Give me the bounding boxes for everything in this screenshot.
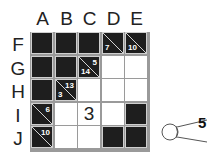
cell-bi[interactable] — [55, 103, 77, 125]
column-label-b: B — [55, 9, 78, 29]
cell-value — [125, 79, 147, 101]
row-label-i: I — [8, 106, 28, 126]
cell-eh[interactable] — [125, 79, 147, 101]
cell-value — [125, 56, 147, 78]
blocked-cell-dj — [102, 126, 124, 148]
down-clue: 10 — [128, 44, 137, 52]
column-label-e: E — [125, 9, 148, 29]
clue-cell-bh: 133 — [55, 79, 77, 101]
cell-dh[interactable] — [102, 79, 124, 101]
blocked-cell-ah — [31, 79, 53, 101]
clue-cell-df: 7 — [102, 32, 124, 54]
blocked-cell-bg — [55, 56, 77, 78]
cell-dg[interactable] — [102, 56, 124, 78]
column-label-a: A — [31, 9, 54, 29]
cell-value — [78, 79, 100, 101]
across-clue: 10 — [41, 129, 50, 137]
cell-value — [102, 56, 124, 78]
clue-cell-cg: 514 — [78, 56, 100, 78]
row-label-g: G — [8, 59, 28, 79]
cell-value — [102, 103, 124, 125]
kakuro-grid: 7105141336310 — [30, 32, 150, 152]
row-label-f: F — [8, 35, 28, 55]
hint-callout-value: 5 — [198, 114, 206, 131]
down-clue: 3 — [58, 91, 62, 99]
cell-eg[interactable] — [125, 56, 147, 78]
clue-cell-ef: 10 — [125, 32, 147, 54]
down-clue: 7 — [105, 44, 109, 52]
across-clue: 6 — [46, 106, 50, 114]
cell-value — [55, 103, 77, 125]
row-label-j: J — [8, 129, 28, 149]
clue-cell-aj: 10 — [31, 126, 53, 148]
down-clue: 14 — [81, 68, 90, 76]
blocked-cell-ag — [31, 56, 53, 78]
column-label-c: C — [78, 9, 101, 29]
blocked-cell-ej — [125, 126, 147, 148]
blocked-cell-bf — [55, 32, 77, 54]
across-clue: 5 — [93, 59, 97, 67]
clue-cell-ai: 6 — [31, 103, 53, 125]
cell-value — [78, 126, 100, 148]
row-label-h: H — [8, 82, 28, 102]
blocked-cell-ei — [125, 103, 147, 125]
cell-bj[interactable] — [55, 126, 77, 148]
cell-ch[interactable] — [78, 79, 100, 101]
cell-cj[interactable] — [78, 126, 100, 148]
column-label-d: D — [102, 9, 125, 29]
blocked-cell-cf — [78, 32, 100, 54]
cell-value — [55, 126, 77, 148]
cell-di[interactable] — [102, 103, 124, 125]
blocked-cell-af — [31, 32, 53, 54]
cell-value — [102, 79, 124, 101]
cell-value: 3 — [78, 103, 100, 125]
cell-ci[interactable]: 3 — [78, 103, 100, 125]
across-clue: 13 — [65, 82, 74, 90]
